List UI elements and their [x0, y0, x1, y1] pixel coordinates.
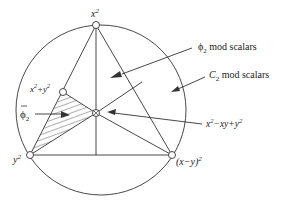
- point-x-minus-y-sq: [169, 152, 176, 159]
- arrow-phi2-region: [122, 48, 192, 74]
- label-x2-plus-y2: x2+y2: [29, 83, 50, 94]
- point-y2: [27, 152, 34, 159]
- label-center-point: x2−xy+y2: [205, 117, 243, 129]
- arrowhead-icon: [107, 109, 116, 115]
- label-top-vertex: x2: [90, 7, 99, 19]
- label-phi2-mod-scalars: ϕ2 mod scalars: [198, 41, 257, 55]
- label-c2-mod-scalars: C2 mod scalars: [209, 69, 269, 83]
- hatched-region: [30, 92, 96, 155]
- arrowhead-icon: [171, 86, 180, 92]
- line-center-up-right: [96, 82, 142, 113]
- line-center-to-xy2: [96, 113, 172, 155]
- arrow-center-point: [114, 113, 202, 124]
- point-x2-plus-y2: [60, 89, 67, 96]
- point-x2: [93, 22, 100, 29]
- label-y2: y2: [12, 153, 21, 165]
- arrowhead-icon: [110, 71, 122, 78]
- moduli-diagram: x2 x2+y2 ϕ2 y2 (x−y)2 x2−xy+y2 ϕ2 mod sc…: [0, 0, 286, 202]
- label-x-minus-y-sq: (x−y)2: [176, 155, 202, 168]
- label-phi2-bar: ϕ2: [20, 108, 30, 123]
